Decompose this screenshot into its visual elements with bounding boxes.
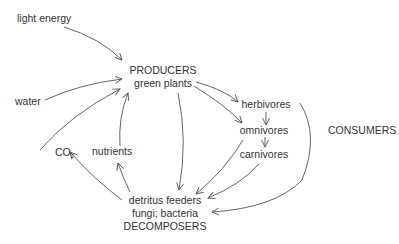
node-producers-sub: green plants xyxy=(134,77,192,89)
node-decomposers-line2: fungi; bacteria xyxy=(132,207,198,219)
arrow-decomposers-to-co2 xyxy=(70,152,122,200)
arrow-co2-to-producers xyxy=(40,89,120,150)
node-consumers: CONSUMERS xyxy=(328,124,396,136)
arrow-producers-to-herbivores xyxy=(196,82,238,102)
node-decomposers-line1: detritus feeders xyxy=(129,194,201,206)
node-nutrients: nutrients xyxy=(92,145,132,157)
node-omnivores: omnivores xyxy=(240,124,288,136)
arrow-decomposers-to-nutrients xyxy=(118,163,130,192)
node-co2: CO2 xyxy=(55,146,74,162)
node-carnivores: carnivores xyxy=(240,148,288,160)
arrow-producers-to-decomposers xyxy=(178,93,183,190)
arrow-carnivores-to-decomposers xyxy=(208,164,259,198)
arrow-producers-to-omnivores xyxy=(194,86,242,123)
node-herbivores: herbivores xyxy=(241,98,290,110)
node-decomposers-title: DECOMPOSERS xyxy=(124,220,207,232)
arrow-light-to-producers xyxy=(64,27,122,60)
node-light-energy: light energy xyxy=(17,12,71,24)
arrow-omnivores-to-decomposers xyxy=(196,140,243,194)
node-water: water xyxy=(15,95,41,107)
node-producers-title: PRODUCERS xyxy=(129,64,196,76)
arrow-nutrients-to-producers xyxy=(120,93,128,146)
arrows-layer xyxy=(0,0,399,244)
arrow-water-to-producers xyxy=(45,79,122,100)
